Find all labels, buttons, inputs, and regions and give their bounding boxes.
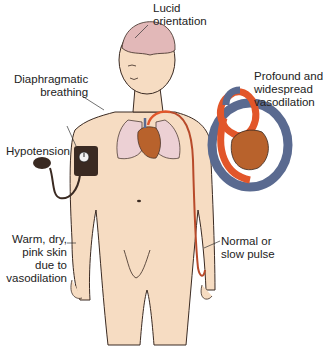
label-line: due to xyxy=(5,259,67,272)
label-lucid-orientation: Lucid orientation xyxy=(153,2,207,28)
label-line: Lucid xyxy=(153,2,207,15)
label-line: breathing xyxy=(14,86,88,99)
diagram-figure: Lucid orientation Diaphragmatic breathin… xyxy=(0,0,323,353)
label-line: Warm, dry, xyxy=(5,233,67,246)
body-illustration xyxy=(0,0,323,353)
label-line: pink skin xyxy=(5,246,67,259)
label-warm-dry-skin: Warm, dry, pink skin due to vasodilation xyxy=(5,233,67,285)
label-line: Profound and xyxy=(254,70,323,83)
label-line: orientation xyxy=(153,15,207,28)
label-line: Diaphragmatic xyxy=(14,73,88,86)
large-heart xyxy=(231,130,268,170)
label-diaphragmatic-breathing: Diaphragmatic breathing xyxy=(14,73,88,99)
label-line: Hypotension xyxy=(6,145,70,158)
label-hypotension: Hypotension xyxy=(6,145,70,158)
label-line: vasodilation xyxy=(254,96,323,109)
label-vasodilation: Profound and widespread vasodilation xyxy=(254,70,323,109)
label-line: widespread xyxy=(254,83,323,96)
label-line: slow pulse xyxy=(221,248,275,261)
label-line: Normal or xyxy=(221,235,275,248)
label-line: vasodilation xyxy=(5,272,67,285)
label-normal-slow-pulse: Normal or slow pulse xyxy=(221,235,275,261)
